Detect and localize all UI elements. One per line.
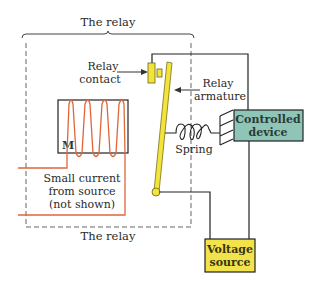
relay-contact	[148, 63, 155, 83]
relay-bracket	[22, 31, 194, 38]
relay-contact-label-line2: contact	[79, 73, 121, 86]
relay-title-top: The relay	[81, 15, 136, 29]
source-note-line3: (not shown)	[49, 198, 115, 211]
pivot-to-source-wire	[159, 192, 210, 239]
armature-contact-nub	[157, 69, 162, 77]
spring-anchor	[220, 110, 233, 145]
controlled-device-label-line2: device	[249, 126, 288, 139]
source-note-line2: from source	[48, 185, 115, 198]
voltage-source-label-line2: source	[209, 256, 250, 269]
voltage-source-label-line1: Voltage	[206, 243, 253, 256]
armature-pivot	[152, 188, 160, 196]
relay-armature	[154, 62, 172, 192]
relay-title-bottom: The relay	[81, 229, 136, 243]
source-note-line1: Small current	[44, 172, 121, 185]
spring	[165, 124, 220, 139]
spring-label: Spring	[175, 143, 212, 156]
relay-armature-label-line1: Relay	[202, 77, 234, 90]
relay-contact-arrow	[117, 69, 148, 75]
relay-diagram: The relay The relay M Small current from…	[0, 0, 317, 285]
controlled-device: Controlled device	[234, 110, 303, 141]
controlled-device-label-line1: Controlled	[235, 113, 301, 126]
relay-contact-label-line1: Relay	[87, 60, 119, 73]
voltage-source: Voltage source	[205, 239, 255, 272]
relay-armature-label-line2: armature	[194, 90, 246, 103]
